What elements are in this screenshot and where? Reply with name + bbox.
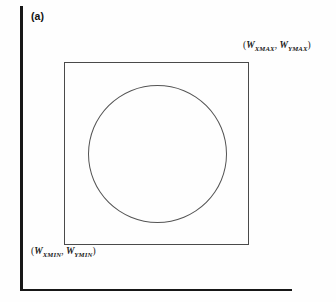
wxmax-variable: W — [246, 40, 254, 50]
circle-object — [88, 85, 227, 223]
wymin-subscript: YMIN — [74, 251, 92, 258]
x-axis — [20, 289, 292, 292]
window-min-corner-label: (WXMIN, WYMIN) — [31, 247, 96, 259]
label-close-paren: ) — [93, 246, 96, 256]
wxmax-subscript: XMAX — [255, 45, 275, 52]
y-axis — [20, 6, 23, 291]
wxmin-subscript: XMIN — [43, 251, 62, 258]
label-close-paren: ) — [308, 40, 311, 50]
panel-label: (a) — [31, 10, 44, 22]
window-max-corner-label: (WXMAX, WYMAX) — [243, 41, 311, 53]
wymax-subscript: YMAX — [288, 45, 308, 52]
wxmin-variable: W — [34, 246, 42, 256]
wymax-variable: W — [279, 40, 287, 50]
figure-container: (a) (WXMAX, WYMAX) (WXMIN, WYMIN) — [0, 0, 336, 302]
